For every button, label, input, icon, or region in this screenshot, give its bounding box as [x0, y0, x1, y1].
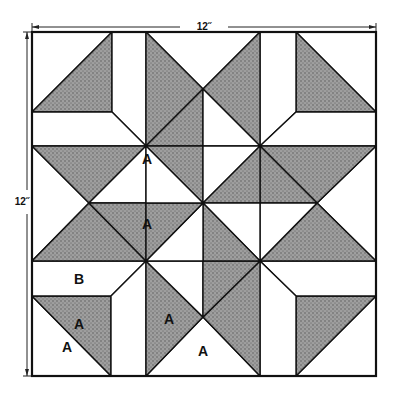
height-dimension: 12˝ — [15, 32, 31, 376]
edge-unit-top — [146, 32, 260, 146]
piece-label-b: B — [74, 271, 84, 287]
corner-unit-top-right — [260, 32, 376, 146]
corner-unit-bottom-right — [260, 261, 376, 376]
piece-label-a: A — [142, 216, 152, 232]
edge-unit-left — [32, 146, 146, 261]
center-pinwheel — [146, 146, 260, 261]
corner-unit-top-left — [32, 32, 146, 146]
piece-label-a: A — [198, 343, 208, 359]
quilt-block-diagram: 12˝ 12˝ A A B A A A A — [0, 0, 396, 395]
piece-label-a: A — [142, 151, 152, 167]
width-dimension: 12˝ — [32, 21, 376, 32]
corner-unit-bottom-left — [32, 261, 146, 376]
height-dimension-label: 12˝ — [15, 196, 30, 207]
edge-unit-right — [260, 146, 376, 261]
piece-label-a: A — [164, 311, 174, 327]
piece-label-a: A — [62, 339, 72, 355]
piece-label-a: A — [74, 316, 84, 332]
width-dimension-label: 12˝ — [197, 21, 212, 32]
